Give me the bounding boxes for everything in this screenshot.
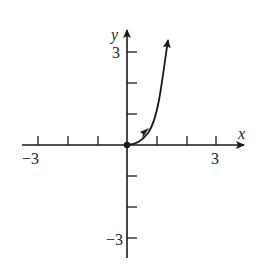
y-tick-label-neg3: −3	[106, 231, 123, 248]
function-graph: y x 3 −3 −3 3	[0, 0, 262, 274]
x-tick-label-3: 3	[211, 150, 219, 167]
y-tick-label-3: 3	[112, 44, 120, 61]
origin-point	[124, 142, 130, 148]
x-axis-label: x	[237, 125, 245, 142]
y-axis-label: y	[109, 26, 119, 44]
x-tick-label-neg3: −3	[22, 150, 39, 167]
